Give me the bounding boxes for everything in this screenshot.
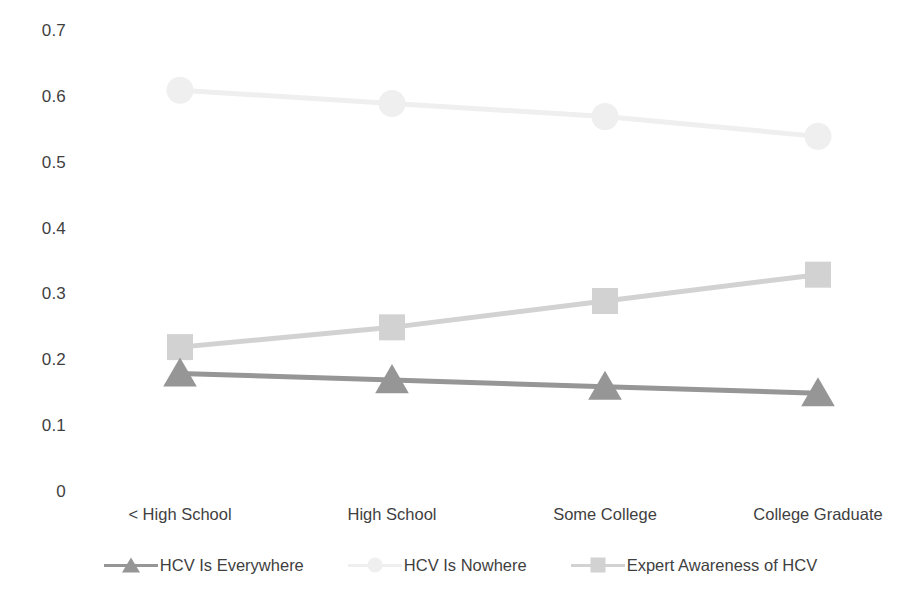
- x-axis-tick-label: Some College: [553, 505, 657, 524]
- legend-item[interactable]: Expert Awareness of HCV: [571, 555, 817, 575]
- legend-label: Expert Awareness of HCV: [627, 556, 817, 575]
- legend-label: HCV Is Nowhere: [404, 556, 527, 575]
- x-axis-tick-label: College Graduate: [753, 505, 882, 524]
- chart-container: 00.10.20.30.40.50.60.7 < High SchoolHigh…: [0, 0, 921, 603]
- legend-swatch: [104, 555, 158, 575]
- chart-legend: HCV Is EverywhereHCV Is NowhereExpert Aw…: [0, 548, 921, 582]
- x-axis-tick-label: High School: [348, 505, 437, 524]
- legend-marker-triangle: [122, 558, 140, 573]
- x-axis: < High SchoolHigh SchoolSome CollegeColl…: [0, 0, 921, 603]
- legend-label: HCV Is Everywhere: [160, 556, 304, 575]
- legend-swatch: [571, 555, 625, 575]
- legend-swatch: [348, 555, 402, 575]
- x-axis-tick-label: < High School: [128, 505, 231, 524]
- legend-item[interactable]: HCV Is Nowhere: [348, 555, 527, 575]
- legend-item[interactable]: HCV Is Everywhere: [104, 555, 304, 575]
- legend-marker-circle: [367, 558, 382, 573]
- legend-marker-square: [590, 558, 605, 573]
